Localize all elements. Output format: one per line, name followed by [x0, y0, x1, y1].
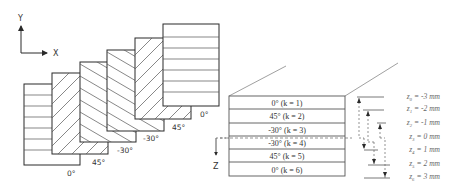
ply-2-angle-label: 45° — [92, 158, 106, 167]
ply-6-angle-label: 0° — [200, 110, 209, 119]
z-axis-label: Z — [213, 162, 219, 171]
layer-5-label: 45° (k = 5) — [269, 152, 304, 161]
ply-3-angle-label: -30° — [117, 146, 133, 155]
z0-label: z₀ = -3 mm — [406, 92, 441, 101]
z4-label: z₄ = 1 mm — [408, 145, 440, 154]
layer-1-label: 0° (k = 1) — [271, 99, 302, 108]
z1-arrow-icon — [366, 111, 370, 116]
z5-arrow-icon — [372, 159, 376, 164]
z5-label: z₅ = 2 mm — [408, 159, 440, 168]
z2-label: z₂ = -1 mm — [406, 118, 441, 127]
z0-arrow-icon — [357, 98, 361, 103]
z4-arrow-icon — [362, 144, 366, 149]
x-axis-label: X — [53, 49, 59, 58]
z-axis: Z — [213, 138, 229, 171]
ply-4-angle-label: -30° — [143, 134, 159, 143]
z3-label: z₃ = 0 mm — [408, 132, 440, 141]
y-axis-label: Y — [17, 14, 23, 23]
layer-4-label: -30° (k = 4) — [268, 139, 306, 148]
laminate-block: 0° (k = 1) 45° (k = 2) -30° (k = 3) -30°… — [220, 63, 398, 176]
ply-5-angle-label: 45° — [172, 123, 186, 132]
layer-3-label: -30° (k = 3) — [268, 126, 306, 135]
ply-1-angle-label: 0° — [67, 169, 76, 178]
layer-2-label: 45° (k = 2) — [269, 112, 304, 121]
layer-6-label: 0° (k = 6) — [271, 166, 302, 175]
ply-6 — [163, 24, 219, 106]
z6-arrow-icon — [383, 172, 387, 177]
z6-label: z₆ = 3 mm — [408, 172, 440, 181]
z2-arrow-icon — [378, 124, 382, 129]
xy-axes: Y X — [17, 14, 59, 58]
z-dimension-markers — [357, 97, 390, 178]
z1-label: z₁ = -2 mm — [406, 104, 441, 113]
laminate-diagram: Y X — [0, 0, 455, 193]
